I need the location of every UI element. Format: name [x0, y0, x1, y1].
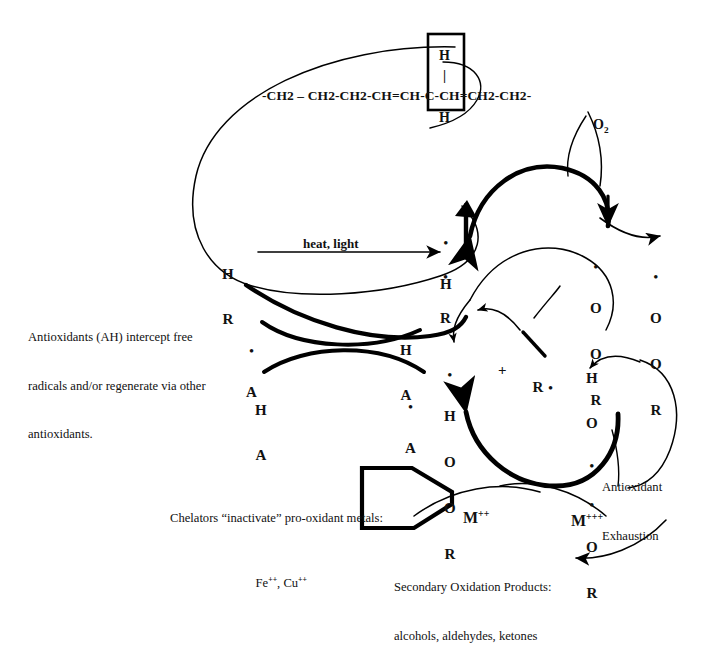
hydroperoxide-left-dot: •: [444, 371, 456, 379]
oxygen-symbol: O: [593, 117, 604, 132]
antioxidant-note: Antioxidants (AH) intercept free radical…: [28, 297, 243, 458]
antioxidant-AH-right-h: H: [400, 343, 412, 358]
antioxidant-AH-left-h: H: [255, 403, 267, 418]
boxed-hydrogen-bottom: H: [439, 110, 450, 127]
antioxidant-radical-left-dot: •: [246, 347, 257, 355]
antioxidant-AH-left-a: A: [255, 448, 267, 463]
antioxidant-exhaustion-line-2: Exhaustion: [602, 528, 692, 544]
antioxidant-AH-left: H A: [255, 372, 267, 479]
free-alkyl-radical-atom: R: [533, 379, 544, 395]
hydroperoxide-left-h: H: [444, 409, 456, 424]
boxed-bond: |: [443, 68, 446, 85]
antioxidant-radical-right-atom: A: [405, 441, 416, 456]
antioxidant-note-line-3: antioxidants.: [28, 426, 243, 442]
secondary-products-line-1: Secondary Oxidation Products:: [394, 579, 624, 595]
peroxyl-2-r: R: [650, 403, 662, 418]
antioxidant-exhaustion-line-1: Antioxidant: [602, 479, 692, 495]
chelator-copper-charge: ++: [298, 575, 307, 584]
chelator-note-line-2: Fe++, Cu++: [170, 559, 380, 608]
peroxyl-radical-2: • O O R: [650, 242, 662, 434]
peroxyl-1-o1: O: [590, 301, 602, 316]
oxygen-subscript: 2: [604, 124, 609, 134]
metal-3plus-charge: +++: [586, 511, 603, 522]
antioxidant-note-line-1: Antioxidants (AH) intercept free: [28, 329, 243, 345]
peroxyl-2-dot: •: [650, 273, 662, 281]
heat-light-label: heat, light: [303, 236, 359, 251]
metal-ion-2plus: M++: [455, 489, 489, 528]
hydroperoxide-right-dot1: •: [586, 462, 598, 470]
peroxyl-2-o1: O: [650, 311, 662, 326]
hydroperoxide-right-h: H: [586, 371, 598, 386]
chelator-iron-charge: ++: [268, 575, 277, 584]
peroxyl-2-o2: O: [650, 357, 662, 372]
antioxidant-exhaustion-label: Antioxidant Exhaustion: [602, 447, 692, 560]
hydroperoxide-left: • H O O R: [444, 340, 456, 578]
secondary-products-line-2: alcohols, aldehydes, ketones: [394, 628, 624, 644]
hydroperoxide-left-o1: O: [444, 455, 456, 470]
alkyl-radical: • R: [440, 242, 451, 342]
lipid-RH-h: H: [222, 267, 234, 282]
hydroperoxide-right-o1: O: [586, 416, 598, 431]
chelator-iron: Fe: [256, 576, 269, 590]
antioxidant-radical-right-dot: •: [405, 403, 416, 411]
alkyl-radical-dot: •: [440, 273, 451, 281]
peroxyl-1-dot: •: [590, 263, 602, 271]
metal-ion-3plus: M+++: [563, 492, 603, 531]
metal-2plus-symbol: M: [463, 509, 478, 526]
metal-2plus-charge: ++: [478, 508, 489, 519]
boxed-hydrogen-top: H: [439, 48, 450, 65]
antioxidant-note-line-2: radicals and/or regenerate via other: [28, 378, 243, 394]
chelator-copper: , Cu: [277, 576, 298, 590]
free-alkyl-radical-dot: •: [548, 380, 553, 395]
alkyl-radical-atom: R: [440, 311, 451, 326]
secondary-oxidation-products: Secondary Oxidation Products: alcohols, …: [394, 547, 624, 647]
free-alkyl-radical: R•: [525, 361, 553, 396]
plus-sign: +: [498, 362, 507, 380]
oxygen-label: O2: [586, 100, 609, 135]
hydroperoxide-left-o2: O: [444, 501, 456, 516]
chelator-note-line-1: Chelators “inactivate” pro-oxidant metal…: [170, 510, 380, 526]
lipid-chain-formula: -CH2 – CH2-CH2-CH=CH-C-CH=CH2-CH2-: [262, 88, 531, 104]
antioxidant-radical-right: • A: [405, 372, 416, 472]
metal-3plus-symbol: M: [571, 512, 586, 529]
chelator-note: Chelators “inactivate” pro-oxidant metal…: [170, 478, 380, 623]
